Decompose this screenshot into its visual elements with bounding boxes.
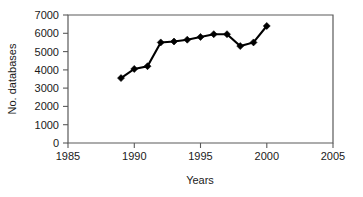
y-tick-label: 5000 — [35, 46, 59, 58]
chart-figure: 7000 6000 5000 4000 3000 2000 1000 0 198… — [0, 0, 363, 197]
y-tick-label: 6000 — [35, 27, 59, 39]
line-chart: 7000 6000 5000 4000 3000 2000 1000 0 198… — [0, 0, 363, 197]
y-axis-ticks — [63, 15, 68, 143]
y-tick-label: 1000 — [35, 119, 59, 131]
x-tick-label: 1990 — [122, 150, 146, 162]
y-axis-tick-labels: 7000 6000 5000 4000 3000 2000 1000 0 — [35, 9, 59, 149]
y-tick-label: 0 — [53, 137, 59, 149]
x-tick-label: 1985 — [56, 150, 80, 162]
y-tick-label: 7000 — [35, 9, 59, 21]
x-tick-label: 2000 — [255, 150, 279, 162]
x-axis-tick-labels: 1985 1990 1995 2000 2005 — [56, 150, 345, 162]
y-tick-label: 2000 — [35, 100, 59, 112]
x-tick-label: 1995 — [188, 150, 212, 162]
y-tick-label: 3000 — [35, 82, 59, 94]
x-tick-label: 2005 — [321, 150, 345, 162]
x-axis-ticks — [68, 143, 333, 148]
y-tick-label: 4000 — [35, 64, 59, 76]
y-axis-title: No. databases — [6, 43, 18, 114]
x-axis-title: Years — [186, 174, 214, 186]
